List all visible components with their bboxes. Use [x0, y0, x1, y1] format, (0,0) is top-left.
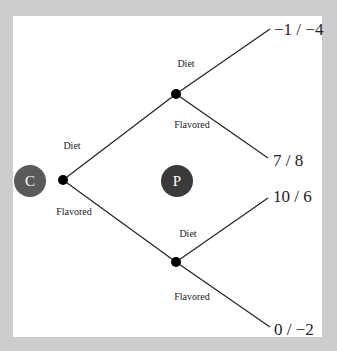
lower-node-diet-label: Diet — [179, 228, 196, 239]
upper-node-diet-label: Diet — [177, 58, 194, 69]
payoff-4: 0 / −2 — [274, 320, 314, 339]
root-node — [58, 175, 68, 185]
lower-node-flavored-label: Flavored — [174, 291, 210, 302]
payoff-1: −1 / −4 — [274, 20, 324, 39]
edge-root-to-lower — [63, 180, 176, 262]
edge-root-to-upper — [63, 94, 176, 180]
lower-node — [171, 257, 181, 267]
player-c-label: C — [25, 173, 35, 189]
upper-node-flavored-label: Flavored — [174, 119, 210, 130]
player-p-label: P — [173, 173, 181, 189]
root-branch-upper-label: Diet — [63, 140, 80, 151]
payoff-2: 7 / 8 — [273, 151, 303, 170]
upper-node — [171, 89, 181, 99]
root-branch-lower-label: Flavored — [56, 206, 92, 217]
payoff-3: 10 / 6 — [273, 187, 312, 206]
game-tree: C P Diet Flavored Diet Flavored Diet Fla… — [0, 0, 337, 351]
